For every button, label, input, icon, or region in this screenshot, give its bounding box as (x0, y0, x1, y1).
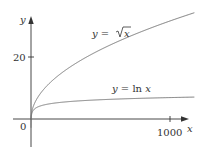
chart-canvas: y x 20 0 1000 y = x y = ln x (0, 0, 204, 152)
sqrt-label-prefix: y = (91, 28, 109, 39)
ln-curve (31, 97, 194, 128)
y-tick-label-20: 20 (13, 52, 26, 63)
y-axis-arrow-icon (28, 16, 33, 24)
svg-text:y =: y = (91, 28, 109, 39)
sqrt-curve-label: y = x (91, 27, 131, 39)
x-tick-label-1000: 1000 (157, 127, 182, 138)
y-axis-label: y (19, 14, 26, 25)
x-axis-label: x (187, 123, 193, 134)
sqrt-label-arg: x (124, 28, 130, 39)
ln-curve-label: y = ln x (111, 83, 151, 94)
origin-label: 0 (20, 121, 26, 132)
x-axis-arrow-icon (181, 116, 189, 121)
